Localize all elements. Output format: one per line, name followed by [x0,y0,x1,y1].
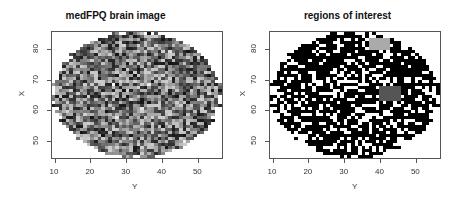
y-tick [265,110,269,111]
y-axis-label: X [238,91,247,96]
x-axis-label: Y [132,182,137,191]
x-tick-label: 40 [157,167,166,176]
y-tick-label: 50 [249,136,258,145]
plot-area [269,31,441,159]
x-tick-label: 40 [375,167,384,176]
y-tick [47,80,51,81]
x-tick [55,159,56,163]
chart-title: regions of interest [232,10,463,21]
x-tick-label: 50 [411,167,420,176]
y-tick-label: 70 [249,75,258,84]
panel-right: regions of interest Y X 1020304050506070… [232,0,463,199]
y-tick [265,80,269,81]
y-tick-label: 70 [31,75,40,84]
x-tick-label: 30 [339,167,348,176]
y-axis-label: X [17,91,26,96]
y-tick [265,141,269,142]
y-tick [47,141,51,142]
x-tick-label: 20 [85,167,94,176]
brain-heatmap [52,32,222,158]
x-axis-label: Y [352,182,357,191]
y-tick-label: 60 [249,105,258,114]
x-tick [308,159,309,163]
y-tick-label: 60 [31,105,40,114]
y-tick [47,110,51,111]
x-tick-label: 50 [193,167,202,176]
x-tick [416,159,417,163]
chart-title: medFPQ brain image [0,10,231,21]
roi-heatmap [270,32,440,158]
y-tick [47,49,51,50]
x-tick-label: 10 [50,167,59,176]
x-tick [198,159,199,163]
panel-left: medFPQ brain image Y X 10203040505060708… [0,0,231,199]
x-tick-label: 20 [303,167,312,176]
x-tick [162,159,163,163]
x-tick [90,159,91,163]
x-tick-label: 30 [121,167,130,176]
y-tick-label: 50 [31,136,40,145]
x-tick-label: 10 [268,167,277,176]
x-tick [344,159,345,163]
x-tick [380,159,381,163]
x-tick [273,159,274,163]
y-tick-label: 80 [31,44,40,53]
y-tick-label: 80 [249,44,258,53]
plot-area [51,31,223,159]
y-tick [265,49,269,50]
x-tick [126,159,127,163]
